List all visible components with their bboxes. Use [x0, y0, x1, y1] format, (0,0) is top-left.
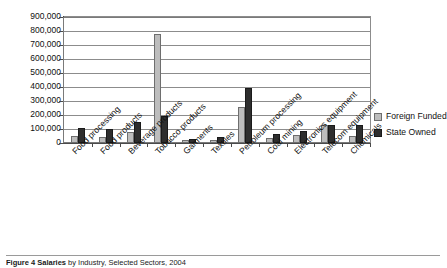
legend-swatch-icon: [374, 129, 382, 137]
x-category-label: Textiles: [209, 129, 236, 156]
legend-label: State Owned: [386, 126, 436, 139]
x-category-label: Food processing: [70, 104, 122, 156]
caption-prefix: Figure 4 Salaries: [6, 258, 66, 267]
legend-item-foreign-funded[interactable]: Foreign Funded: [374, 110, 447, 123]
chart-legend: Foreign Funded State Owned: [374, 110, 447, 142]
legend-label: Foreign Funded: [386, 110, 447, 123]
caption-rest: by Industry, Selected Sectors, 2004: [66, 258, 186, 267]
figure-caption: Figure 4 Salaries by Industry, Selected …: [6, 258, 440, 267]
legend-swatch-icon: [374, 113, 382, 121]
caption-divider: [6, 255, 440, 256]
legend-item-state-owned[interactable]: State Owned: [374, 126, 447, 139]
